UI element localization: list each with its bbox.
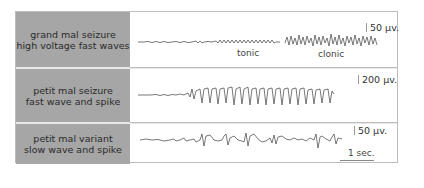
label-petit-mal: petit mal seizure fast wave and spike — [16, 69, 130, 122]
label-line-2: slow wave and spike — [24, 144, 122, 155]
scale-bar-icon — [366, 23, 367, 32]
annotation-tonic: tonic — [237, 48, 259, 58]
label-petit-mal-variant: petit mal variant slow wave and spike — [16, 124, 130, 164]
time-scale-label: 1 sec. — [348, 148, 375, 158]
eeg-trace-petit-mal — [130, 69, 397, 122]
scale-value: 200 µv. — [362, 74, 397, 85]
voltage-scale: 50 µv. — [366, 22, 399, 33]
label-grand-mal: grand mal seizure high voltage fast wave… — [16, 12, 130, 67]
trace-grand-mal: 50 µv. tonic clonic — [130, 12, 397, 67]
scale-value: 50 µv. — [370, 22, 399, 33]
voltage-scale: 200 µv. — [358, 74, 397, 85]
annotation-clonic: clonic — [318, 49, 344, 59]
row-grand-mal: grand mal seizure high voltage fast wave… — [16, 12, 397, 67]
trace-petit-mal-variant: 50 µv. 1 sec. — [130, 124, 397, 162]
row-petit-mal: petit mal seizure fast wave and spike 20… — [16, 69, 397, 122]
label-line-2: high voltage fast waves — [16, 40, 129, 51]
time-scale-bar — [340, 160, 374, 161]
label-line-1: petit mal variant — [33, 133, 112, 144]
trace-petit-mal: 200 µv. — [130, 69, 397, 122]
scale-value: 50 µv. — [358, 125, 387, 136]
scale-bar-icon — [354, 126, 355, 135]
scale-bar-icon — [358, 75, 359, 84]
label-line-2: fast wave and spike — [26, 96, 120, 107]
label-line-1: petit mal seizure — [33, 85, 113, 96]
label-line-1: grand mal seizure — [30, 29, 116, 40]
voltage-scale: 50 µv. — [354, 125, 387, 136]
eeg-pattern-table: grand mal seizure high voltage fast wave… — [15, 11, 398, 163]
row-petit-mal-variant: petit mal variant slow wave and spike 50… — [16, 124, 397, 162]
eeg-trace-grand-mal — [130, 12, 397, 67]
